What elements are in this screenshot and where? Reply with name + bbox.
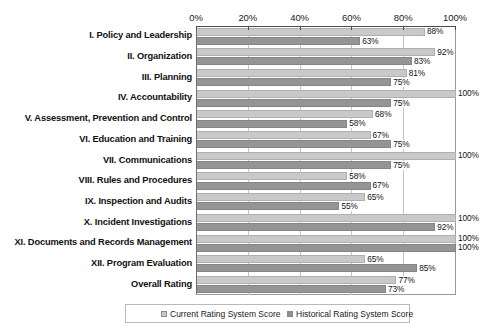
bar-current — [197, 255, 365, 263]
legend-label-current: Current Rating System Score — [170, 309, 281, 319]
category-label: II. Organization — [127, 51, 192, 61]
bar-value-label: 92% — [436, 223, 454, 232]
bar-value-label: 75% — [392, 78, 410, 87]
plot-area: 88%63%92%83%81%75%100%75%68%58%67%75%100… — [196, 26, 455, 295]
x-axis-tick-label: 0% — [189, 12, 203, 23]
x-axis-tick — [248, 26, 249, 30]
bar-value-label: 92% — [436, 48, 454, 57]
bar-value-label: 68% — [374, 110, 392, 119]
bar-value-label: 65% — [366, 193, 384, 202]
category-label: IX. Inspection and Audits — [85, 196, 192, 206]
bar-historical — [197, 264, 417, 272]
bar-historical — [197, 182, 371, 190]
category-label: XII. Program Evaluation — [91, 258, 192, 268]
category-label: I. Policy and Leadership — [89, 30, 192, 40]
legend-label-historical: Historical Rating System Score — [296, 309, 413, 319]
bar-value-label: 75% — [392, 140, 410, 149]
bar-current — [197, 131, 371, 139]
bar-value-label: 65% — [366, 255, 384, 264]
bar-current — [197, 172, 347, 180]
bar-historical — [197, 202, 339, 210]
bar-current — [197, 48, 435, 56]
bar-historical — [197, 37, 360, 45]
bar-value-label: 83% — [413, 57, 431, 66]
bar-current — [197, 214, 456, 222]
legend-item-historical: Historical Rating System Score — [287, 309, 413, 319]
bar-value-label: 73% — [387, 285, 405, 294]
bar-value-label: 63% — [361, 37, 379, 46]
bar-value-label: 75% — [392, 161, 410, 170]
category-label: VII. Communications — [103, 155, 192, 165]
category-label: VI. Education and Training — [79, 134, 192, 144]
bar-current — [197, 193, 365, 201]
bar-historical — [197, 285, 386, 293]
bar-historical — [197, 244, 456, 252]
plot-axis-right — [455, 26, 456, 295]
bar-value-label: 100% — [457, 151, 480, 160]
legend-swatch-historical-icon — [287, 311, 293, 317]
bar-historical — [197, 223, 435, 231]
bar-historical — [197, 140, 391, 148]
bar-current — [197, 90, 456, 98]
legend-swatch-current-icon — [161, 311, 167, 317]
category-label: X. Incident Investigations — [84, 217, 192, 227]
category-label: III. Planning — [142, 72, 192, 82]
bar-value-label: 81% — [408, 69, 426, 78]
x-axis-tick-label: 60% — [342, 12, 361, 23]
x-axis-tick — [455, 26, 456, 30]
bar-historical — [197, 120, 347, 128]
bar-current — [197, 28, 425, 36]
grouped-bar-chart: 0%20%40%60%80%100% 88%63%92%83%81%75%100… — [0, 0, 496, 330]
category-label: Overall Rating — [131, 279, 192, 289]
x-axis-tick-label: 20% — [238, 12, 257, 23]
bar-value-label: 100% — [457, 214, 480, 223]
bar-value-label: 100% — [457, 243, 480, 252]
bar-value-label: 100% — [457, 89, 480, 98]
x-axis-tick — [403, 26, 404, 30]
bar-historical — [197, 57, 412, 65]
bar-historical — [197, 78, 391, 86]
bar-value-label: 67% — [372, 131, 390, 140]
category-label: XI. Documents and Records Management — [15, 237, 192, 247]
category-label: IV. Accountability — [118, 92, 192, 102]
category-label: VIII. Rules and Procedures — [79, 175, 192, 185]
x-axis-tick — [300, 26, 301, 30]
x-axis-tick-labels: 0%20%40%60%80%100% — [196, 12, 455, 25]
legend-item-current: Current Rating System Score — [161, 309, 281, 319]
x-axis-tick-label: 100% — [443, 12, 467, 23]
x-axis-tick — [351, 26, 352, 30]
x-axis-tick-label: 40% — [290, 12, 309, 23]
bar-current — [197, 235, 456, 243]
bar-value-label: 85% — [418, 264, 436, 273]
category-label: V. Assessment, Prevention and Control — [25, 113, 192, 123]
bar-current — [197, 152, 456, 160]
bar-current — [197, 110, 373, 118]
x-axis-tick-label: 80% — [394, 12, 413, 23]
bar-historical — [197, 99, 391, 107]
bar-value-label: 67% — [372, 181, 390, 190]
bar-current — [197, 69, 407, 77]
bar-value-label: 58% — [348, 119, 366, 128]
bar-historical — [197, 161, 391, 169]
bar-value-label: 75% — [392, 99, 410, 108]
bar-value-label: 55% — [340, 202, 358, 211]
bar-current — [197, 276, 396, 284]
chart-legend: Current Rating System Score Historical R… — [125, 304, 410, 323]
x-axis-tick — [196, 26, 197, 30]
bar-value-label: 88% — [426, 27, 444, 36]
bar-value-label: 58% — [348, 172, 366, 181]
